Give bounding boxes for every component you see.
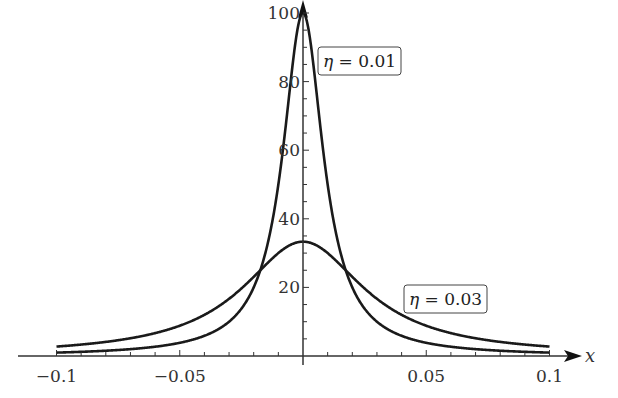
chart-canvas: −0.1−0.050.050.120406080100 x η = 0.01 η… [0, 0, 618, 398]
label-eta-003: η = 0.03 [404, 285, 487, 313]
eta-value: = 0.01 [333, 51, 396, 71]
label-eta-001: η = 0.01 [318, 47, 401, 75]
ticks: −0.1−0.050.050.120406080100 [36, 3, 563, 386]
x-tick-label: −0.1 [36, 366, 77, 386]
y-tick-label: 60 [278, 140, 300, 160]
y-tick-label: 40 [278, 209, 300, 229]
y-tick-label: 80 [278, 72, 300, 92]
x-tick-label: 0.05 [407, 366, 445, 386]
x-tick-label: 0.1 [536, 366, 563, 386]
svg-text:η = 0.03: η = 0.03 [409, 289, 482, 309]
y-tick-label: 100 [268, 3, 300, 23]
x-axis-label: x [585, 345, 595, 366]
x-tick-label: −0.05 [154, 366, 206, 386]
y-tick-label: 20 [278, 277, 300, 297]
svg-text:η = 0.01: η = 0.01 [323, 51, 396, 71]
axes [18, 0, 582, 365]
eta-value: = 0.03 [419, 289, 482, 309]
